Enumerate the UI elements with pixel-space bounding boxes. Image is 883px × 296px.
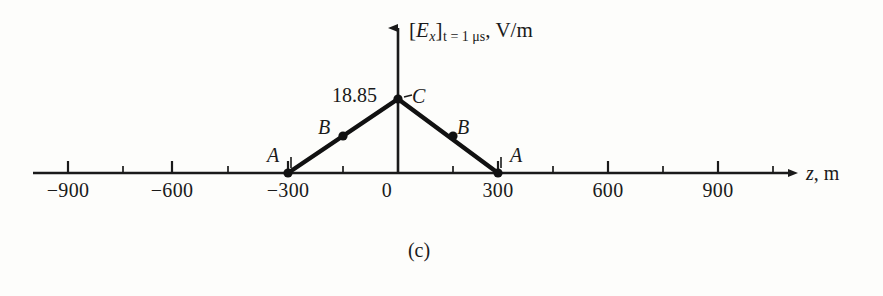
x-axis-label-symbol: z xyxy=(806,162,814,184)
x-tick-label-zero: 0 xyxy=(382,180,392,200)
y-axis-label-symbol: E xyxy=(416,18,429,42)
marker-B-left xyxy=(338,131,347,140)
x-tick-label-minus600: −600 xyxy=(151,180,193,200)
figure-caption: (c) xyxy=(408,240,430,260)
peak-value-label: 18.85 xyxy=(332,85,377,105)
y-axis-label: [Ex]t = 1 μs, V/m xyxy=(409,20,533,44)
x-tick-label-600: 600 xyxy=(593,180,624,200)
y-axis-label-bracket-close: ] xyxy=(436,18,443,42)
point-label-C-apex: C xyxy=(412,86,425,106)
marker-A-left xyxy=(283,168,292,177)
x-axis-label-units: , m xyxy=(814,162,840,184)
x-axis-label: z, m xyxy=(806,163,839,183)
y-axis-label-symbol-subscript: x xyxy=(429,29,436,44)
x-axis-major-ticks xyxy=(68,161,718,173)
y-axis-label-condition: t = 1 μs xyxy=(443,29,486,44)
point-label-A-left: A xyxy=(267,145,279,165)
figure-container: −900 −600 −300 0 300 600 900 A B C B A 1… xyxy=(0,0,883,296)
point-label-A-right: A xyxy=(510,145,522,165)
x-tick-label-300: 300 xyxy=(483,180,514,200)
point-label-B-left: B xyxy=(318,117,330,137)
x-tick-label-900: 900 xyxy=(703,180,734,200)
x-tick-label-minus900: −900 xyxy=(47,180,89,200)
x-tick-label-minus300: −300 xyxy=(267,180,309,200)
marker-C-apex xyxy=(393,94,402,103)
data-point-markers xyxy=(283,94,502,177)
y-axis-label-bracket-open: [ xyxy=(409,18,416,42)
plot-canvas xyxy=(0,0,883,296)
point-label-B-right: B xyxy=(457,117,469,137)
marker-A-right xyxy=(493,168,502,177)
y-axis-label-units: , V/m xyxy=(485,18,532,42)
